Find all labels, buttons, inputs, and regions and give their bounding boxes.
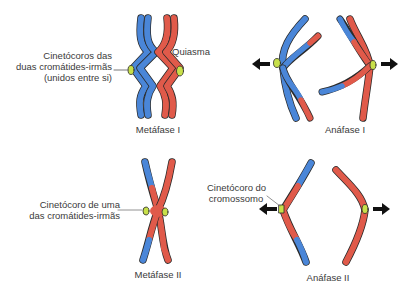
arrow-right-icon xyxy=(381,58,398,70)
leader-line-anaphase2 xyxy=(267,196,280,206)
kinetochore-red xyxy=(177,66,184,76)
label-chiasma: Quiasma xyxy=(172,46,210,57)
caption-metafase-1: Metáfase I xyxy=(113,124,203,135)
label-kinetochore-anaphase2: Cinetócoro do cromossomo xyxy=(207,182,265,204)
arrow-left-icon xyxy=(252,58,270,70)
anaphase-2-right-chromosome xyxy=(336,170,368,262)
metaphase-2-chromosome xyxy=(143,162,172,260)
kinetochore-metaphase2-left xyxy=(143,207,149,215)
caption-anafase-2: Anáfase II xyxy=(283,272,373,283)
caption-anafase-1: Anáfase I xyxy=(300,124,390,135)
kinetochore-metaphase2-right xyxy=(162,208,168,216)
kinetochore-blue xyxy=(128,66,134,75)
arrow-left-icon xyxy=(259,203,277,215)
meiosis-diagram xyxy=(0,0,419,289)
anaphase-2-left-chromosome xyxy=(279,163,311,262)
kinetochore-anaphase1-right xyxy=(370,61,376,70)
caption-metafase-2: Metáfase II xyxy=(113,269,203,280)
label-kinetochore-metaphase2: Cinetócoro de uma das cromátides-irmãs xyxy=(20,199,120,221)
kinetochore-anaphase1-left xyxy=(274,59,281,68)
anaphase-1-left-chromosome xyxy=(274,19,319,118)
arrow-right-icon xyxy=(373,203,390,215)
kinetochore-anaphase2-right xyxy=(362,205,368,214)
metaphase-1-chromosomes xyxy=(128,18,184,115)
anaphase-1-right-chromosome xyxy=(322,19,376,118)
label-kinetochores-metaphase1: Cinetócoros das duas cromátides-irmãs (u… xyxy=(12,50,112,83)
